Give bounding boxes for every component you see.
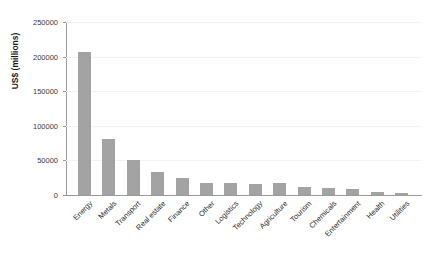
bar <box>200 183 213 195</box>
y-tick-mark <box>63 195 66 196</box>
y-tick-label: 50000 <box>0 156 58 165</box>
y-tick-mark <box>63 91 66 92</box>
bar <box>224 183 237 195</box>
bar <box>78 52 91 195</box>
bar <box>102 139 115 195</box>
y-tick-label: 150000 <box>0 87 58 96</box>
bar <box>298 187 311 195</box>
gridline <box>66 57 421 58</box>
y-tick-label: 0 <box>0 191 58 200</box>
gridline <box>66 160 421 161</box>
y-tick-mark <box>63 57 66 58</box>
bar <box>176 178 189 195</box>
bar-chart: US$ (millions) 0500001000001500002000002… <box>0 0 435 266</box>
plot-area <box>66 22 421 195</box>
y-tick-label: 100000 <box>0 122 58 131</box>
y-tick-mark <box>63 160 66 161</box>
y-tick-label: 200000 <box>0 53 58 62</box>
x-tick-label: Finance <box>166 199 191 224</box>
gridline <box>66 91 421 92</box>
bar <box>371 192 384 195</box>
bar <box>322 188 335 195</box>
bar <box>151 172 164 195</box>
x-tick-label: Other <box>196 199 216 219</box>
x-tick-label: Health <box>365 199 387 221</box>
bar <box>249 184 262 195</box>
gridline <box>66 126 421 127</box>
bar <box>127 160 140 195</box>
bar <box>395 193 408 195</box>
x-tick-label: Metals <box>96 199 118 221</box>
gridline <box>66 22 421 23</box>
bar <box>346 189 359 195</box>
x-tick-label: Energy <box>71 199 94 222</box>
x-axis-line <box>66 195 422 196</box>
bar <box>273 183 286 195</box>
x-tick-label: Utilities <box>388 199 411 222</box>
y-tick-mark <box>63 22 66 23</box>
y-tick-label: 250000 <box>0 18 58 27</box>
y-tick-mark <box>63 126 66 127</box>
